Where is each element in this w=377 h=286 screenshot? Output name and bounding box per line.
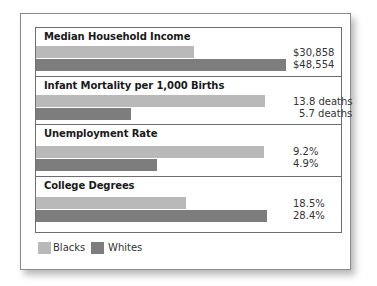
group-title: Median Household Income xyxy=(44,31,190,42)
bar-blacks-income xyxy=(36,46,194,58)
value-blacks-mortality: 13.8 deaths xyxy=(293,96,353,108)
legend-label-blacks: Blacks xyxy=(53,242,85,254)
group-title: College Degrees xyxy=(44,180,134,191)
value-whites-income: $48,554 xyxy=(293,59,334,71)
chart-panel: Median Household Income $30,858 $48,554 … xyxy=(35,27,342,233)
value-whites-mortality: 5.7 deaths xyxy=(299,108,352,120)
bar-blacks-mortality xyxy=(36,95,265,107)
legend-label-whites: Whites xyxy=(108,242,142,254)
value-whites-college: 28.4% xyxy=(293,210,325,222)
bar-whites-unemployment xyxy=(36,159,157,171)
bar-blacks-unemployment xyxy=(36,146,264,158)
group-unemployment: Unemployment Rate 9.2% 4.9% xyxy=(36,125,341,177)
legend-swatch-blacks xyxy=(38,242,51,254)
group-infant-mortality: Infant Mortality per 1,000 Births 13.8 d… xyxy=(36,77,341,125)
chart-card: Median Household Income $30,858 $48,554 … xyxy=(20,13,351,270)
value-blacks-income: $30,858 xyxy=(293,47,334,59)
value-blacks-unemployment: 9.2% xyxy=(293,146,318,158)
group-median-income: Median Household Income $30,858 $48,554 xyxy=(36,28,341,77)
bar-whites-income xyxy=(36,59,286,71)
group-title: Unemployment Rate xyxy=(44,128,157,139)
group-title: Infant Mortality per 1,000 Births xyxy=(44,80,224,91)
bar-whites-college xyxy=(36,210,267,222)
bar-blacks-college xyxy=(36,197,186,209)
bar-whites-mortality xyxy=(36,108,131,120)
group-college-degrees: College Degrees 18.5% 28.4% xyxy=(36,177,341,232)
value-blacks-college: 18.5% xyxy=(293,198,325,210)
legend-swatch-whites xyxy=(91,242,104,254)
value-whites-unemployment: 4.9% xyxy=(293,158,318,170)
